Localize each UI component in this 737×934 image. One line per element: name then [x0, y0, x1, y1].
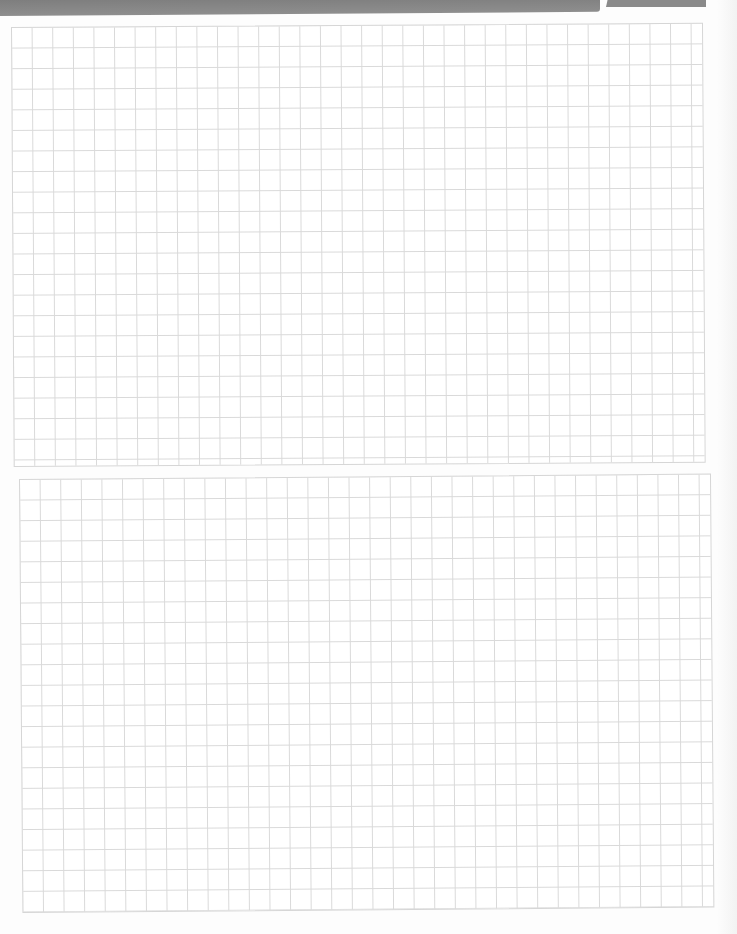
graph-paper-grid-bottom: [19, 474, 714, 913]
page-edge-shadow: [717, 0, 737, 934]
header-band: [0, 0, 600, 16]
graph-paper-grid-top: [11, 23, 706, 467]
header-tab: [606, 0, 706, 7]
